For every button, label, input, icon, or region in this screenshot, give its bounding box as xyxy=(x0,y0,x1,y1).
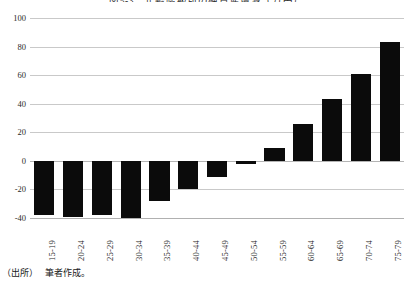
x-axis-tick-label: 65-69 xyxy=(336,217,345,261)
bar xyxy=(92,161,112,215)
y-axis-tick-label: 20 xyxy=(0,128,26,137)
bar xyxy=(380,42,400,161)
x-axis-tick-label: 70-74 xyxy=(365,217,374,261)
plot-area xyxy=(30,18,404,218)
bar-series xyxy=(30,18,404,218)
bar xyxy=(121,161,141,218)
bar xyxy=(63,161,83,217)
bar xyxy=(236,161,256,164)
bar xyxy=(207,161,227,177)
y-axis-tick-label: -20 xyxy=(0,185,26,194)
x-axis-tick-label: 20-24 xyxy=(77,217,86,261)
bar xyxy=(34,161,54,215)
bar xyxy=(149,161,169,201)
x-axis-tick-label: 35-39 xyxy=(163,217,172,261)
chart-title: 図5-3 年齢階級別の純資産増減（万円） xyxy=(0,0,413,2)
y-axis-tick-label: 40 xyxy=(0,100,26,109)
y-axis-tick-label: -40 xyxy=(0,214,26,223)
x-axis-tick-labels: 15-1920-2425-2930-3435-3940-4445-4950-54… xyxy=(30,219,404,263)
x-axis-tick-label: 25-29 xyxy=(106,217,115,261)
y-axis-tick-label: 0 xyxy=(0,157,26,166)
y-axis-tick-label: 60 xyxy=(0,71,26,80)
x-axis-tick-label: 60-64 xyxy=(307,217,316,261)
y-axis-tick-label: 100 xyxy=(0,14,26,23)
source-label: （出所） xyxy=(2,268,38,278)
x-axis-tick-label: 50-54 xyxy=(250,217,259,261)
x-axis-tick-label: 55-59 xyxy=(279,217,288,261)
bar xyxy=(351,74,371,161)
bar xyxy=(322,99,342,160)
bar xyxy=(178,161,198,190)
bar xyxy=(264,148,284,161)
source-note: （出所）筆者作成。 xyxy=(2,268,90,279)
figure-container: 図5-3 年齢階級別の純資産増減（万円） 100806040200-20-40 … xyxy=(0,0,413,287)
x-axis-tick-label: 40-44 xyxy=(192,217,201,261)
bar xyxy=(293,124,313,161)
source-text: 筆者作成。 xyxy=(45,268,90,278)
x-axis-tick-label: 75-79 xyxy=(394,217,403,261)
y-axis-tick-label: 80 xyxy=(0,43,26,52)
x-axis-tick-label: 15-19 xyxy=(48,217,57,261)
x-axis-tick-label: 45-49 xyxy=(221,217,230,261)
x-axis-tick-label: 30-34 xyxy=(135,217,144,261)
